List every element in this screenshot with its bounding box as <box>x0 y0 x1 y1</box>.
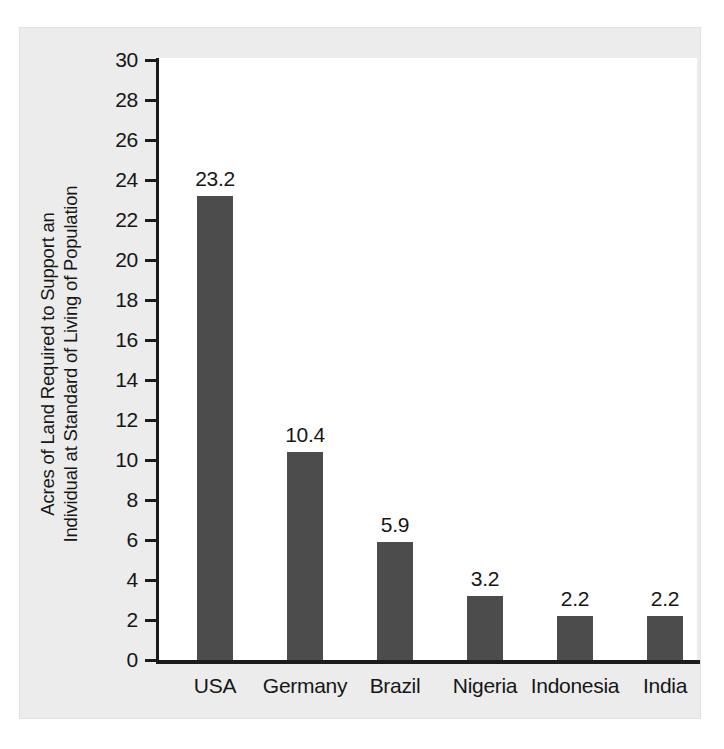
y-axis-tick-label: 24 <box>100 169 138 190</box>
y-axis-title: Acres of Land Required to Support an Ind… <box>36 54 82 674</box>
y-axis-tick-mark <box>145 339 156 342</box>
y-axis-tick-mark <box>145 379 156 382</box>
y-axis-title-line-2: Individual at Standard of Living of Popu… <box>59 54 82 674</box>
y-axis-tick-mark <box>145 59 156 62</box>
y-axis-title-line-1: Acres of Land Required to Support an <box>36 54 59 674</box>
plot-area <box>157 58 697 660</box>
bar-value-label: 3.2 <box>440 568 530 589</box>
y-axis-tick-mark <box>145 259 156 262</box>
y-axis-tick-labels: 302826242220181614121086420 <box>92 28 138 688</box>
y-axis-tick-mark <box>145 139 156 142</box>
bar-value-label: 2.2 <box>530 588 620 609</box>
y-axis-tick-label: 18 <box>100 289 138 310</box>
y-axis-tick-label: 6 <box>100 529 138 550</box>
bar[interactable] <box>287 452 323 660</box>
y-axis-tick-mark <box>145 579 156 582</box>
y-axis-tick-label: 22 <box>100 209 138 230</box>
bar[interactable] <box>467 596 503 660</box>
bar[interactable] <box>647 616 683 660</box>
category-label: India <box>610 674 720 698</box>
y-axis-tick-mark <box>145 659 156 662</box>
y-axis-tick-mark <box>145 179 156 182</box>
y-axis-tick-label: 14 <box>100 369 138 390</box>
y-axis-tick-label: 4 <box>100 569 138 590</box>
bar-value-label: 23.2 <box>170 168 260 189</box>
y-axis-tick-mark <box>145 419 156 422</box>
bar-value-label: 2.2 <box>620 588 710 609</box>
y-axis-tick-mark <box>145 219 156 222</box>
bar-value-label: 10.4 <box>260 424 350 445</box>
y-axis-tick-mark <box>145 499 156 502</box>
y-axis-tick-label: 26 <box>100 129 138 150</box>
y-axis-tick-label: 30 <box>100 49 138 70</box>
y-axis-tick-label: 12 <box>100 409 138 430</box>
bar[interactable] <box>377 542 413 660</box>
y-axis-tick-mark <box>145 99 156 102</box>
bar[interactable] <box>557 616 593 660</box>
y-axis-tick-mark <box>145 299 156 302</box>
y-axis-tick-label: 2 <box>100 609 138 630</box>
chart-card: 302826242220181614121086420 Acres of Lan… <box>20 28 700 718</box>
y-axis-tick-label: 10 <box>100 449 138 470</box>
y-axis-tick-mark <box>145 459 156 462</box>
y-axis-tick-label: 28 <box>100 89 138 110</box>
y-axis-line <box>156 58 159 661</box>
bar[interactable] <box>197 196 233 660</box>
y-axis-tick-label: 0 <box>100 649 138 670</box>
y-axis-tick-label: 20 <box>100 249 138 270</box>
y-axis-tick-label: 16 <box>100 329 138 350</box>
y-axis-tick-label: 8 <box>100 489 138 510</box>
x-axis-line <box>156 660 700 664</box>
y-axis-tick-mark <box>145 619 156 622</box>
y-axis-tick-mark <box>145 539 156 542</box>
bar-value-label: 5.9 <box>350 514 440 535</box>
